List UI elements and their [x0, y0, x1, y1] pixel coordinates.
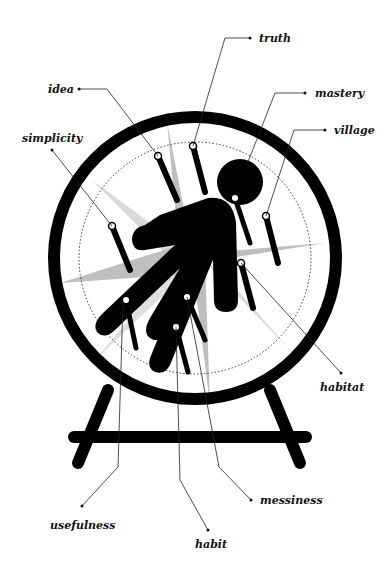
pin-simplicity	[109, 223, 131, 271]
hamster-wheel-diagram: truth idea mastery simplicity village ha…	[0, 0, 390, 574]
label-usefulness: usefulness	[50, 519, 115, 532]
label-habitat: habitat	[320, 381, 364, 394]
pin-truth	[190, 143, 206, 193]
label-truth: truth	[259, 32, 291, 45]
label-idea: idea	[48, 83, 74, 96]
label-mastery: mastery	[315, 87, 366, 100]
pin-village	[263, 213, 279, 264]
label-village: village	[334, 124, 375, 137]
label-messiness: messiness	[260, 494, 323, 507]
label-habit: habit	[195, 538, 227, 551]
figure-head	[217, 159, 263, 205]
label-simplicity: simplicity	[22, 132, 84, 145]
